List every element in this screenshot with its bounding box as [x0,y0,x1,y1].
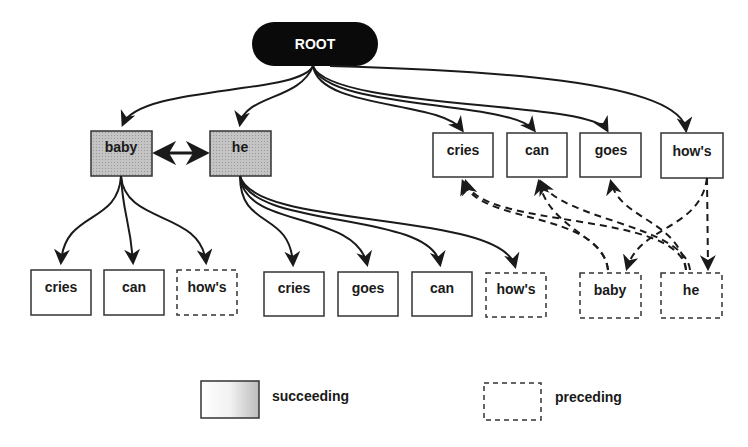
node-label: baby [105,139,138,155]
legend-succeeding-swatch [201,381,259,418]
node-label: how's [496,281,535,297]
legend-succeeding: succeeding [201,381,349,418]
dashed-edges [463,178,708,270]
node-label: he [232,139,249,155]
node-he-succeeding: he [210,131,271,176]
node-he-child-can: can [412,272,472,316]
node-label: baby [594,282,627,298]
legend-preceding-swatch [484,383,541,420]
root-edges [123,66,686,130]
node-label: cries [447,142,480,158]
node-label: goes [352,280,385,296]
node-he-child-cries: cries [264,272,324,316]
node-baby-succeeding: baby [91,131,152,176]
node-can: can [507,133,567,177]
node-baby-child-hows: how's [177,270,237,315]
node-label: cries [278,280,311,296]
node-he-preceding: he [661,273,722,318]
node-baby-preceding: baby [580,273,641,318]
root-label: ROOT [295,36,336,52]
node-label: how's [672,143,711,159]
node-hows: how's [661,133,723,178]
legend-preceding-label: preceding [555,389,622,405]
node-label: how's [187,279,226,295]
node-baby-child-cries: cries [31,270,91,315]
legend-preceding: preceding [484,383,622,420]
node-label: can [525,142,549,158]
dependency-diagram: ROOT baby he cries can goes how's [0,0,748,447]
node-cries: cries [433,133,493,177]
node-label: can [430,280,454,296]
baby-edges [61,176,206,262]
node-goes: goes [580,133,641,177]
node-baby-child-can: can [104,270,164,315]
root-node: ROOT [252,22,378,66]
node-label: goes [595,142,628,158]
node-he-child-hows: how's [486,273,546,317]
node-label: he [683,282,700,298]
node-he-child-goes: goes [338,272,398,316]
legend: succeeding preceding [201,381,622,420]
node-label: can [122,279,146,295]
legend-succeeding-label: succeeding [272,388,349,404]
he-edges [240,176,515,266]
node-label: cries [45,279,78,295]
